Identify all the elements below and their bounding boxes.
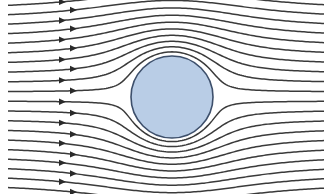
flow-arrow-icon (59, 56, 66, 62)
flow-arrow-icon (70, 45, 77, 51)
streamline (8, 15, 324, 33)
flow-arrow-icon (70, 66, 77, 72)
streamline (8, 159, 324, 178)
flow-arrow-icon (59, 99, 66, 105)
cylinder-obstacle (131, 56, 213, 138)
flow-arrow-icon (70, 88, 77, 94)
flow-arrow-icon (70, 151, 77, 157)
flow-arrow-icon (70, 26, 77, 32)
streamline (8, 22, 324, 43)
flow-arrow-icon (59, 36, 66, 42)
flow-arrow-icon (59, 179, 66, 185)
flow-arrow-icon (70, 7, 77, 13)
flow-arrow-icon (59, 120, 66, 126)
flow-arrow-icon (70, 189, 77, 194)
flow-arrow-icon (70, 131, 77, 137)
streamline-canvas (0, 0, 331, 194)
flow-arrow-icon (59, 0, 66, 5)
flow-arrow-icon (59, 17, 66, 23)
streamline (8, 150, 324, 171)
flow-arrow-icon (70, 110, 77, 116)
flow-arrow-icon (59, 77, 66, 83)
flow-diagram: Streamlines of flow around a cylinder (0, 0, 331, 194)
flow-arrow-icon (70, 170, 77, 176)
flow-arrow-icon (59, 160, 66, 166)
flow-arrow-icon (59, 140, 66, 146)
